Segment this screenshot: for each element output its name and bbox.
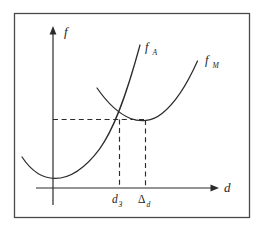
cost-curves-figure: f d f A f M d З Δ d bbox=[0, 0, 265, 232]
curve-label-fa-base: f bbox=[145, 40, 150, 54]
x-tick-label-delta-d: Δ d bbox=[138, 193, 151, 209]
x-tick-delta-d-sub: d bbox=[147, 200, 151, 209]
curve-label-fa-sub: A bbox=[152, 48, 158, 57]
curve-fa bbox=[22, 45, 140, 178]
curve-fm bbox=[97, 61, 198, 121]
x-axis-label: d bbox=[224, 180, 231, 195]
y-axis-arrow-icon bbox=[50, 26, 57, 35]
curve-label-fm-base: f bbox=[205, 53, 210, 67]
x-tick-label-d-sigma: d З bbox=[112, 193, 123, 209]
curve-label-fm: f M bbox=[205, 53, 220, 70]
x-tick-d-sigma-sub: З bbox=[119, 200, 123, 209]
x-axis-arrow-icon bbox=[211, 185, 220, 192]
figure-page: f d f A f M d З Δ d bbox=[0, 0, 265, 232]
x-tick-d-sigma-base: d bbox=[112, 193, 118, 205]
y-axis-label: f bbox=[64, 24, 70, 39]
curve-label-fm-sub: M bbox=[212, 61, 220, 70]
curve-label-fa: f A bbox=[145, 40, 158, 57]
x-tick-delta-d-base: Δ bbox=[138, 193, 145, 205]
